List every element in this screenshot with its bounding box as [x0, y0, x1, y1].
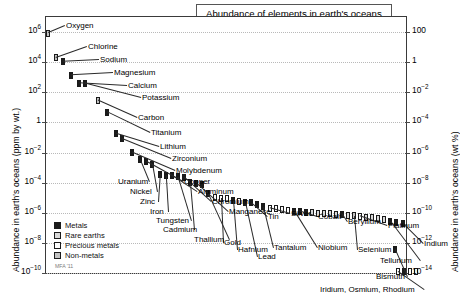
element-label: Beryllium [348, 217, 381, 226]
element-label: Chromium [212, 197, 249, 206]
element-label: Selenium [358, 245, 391, 254]
axis-tick [405, 153, 410, 154]
legend-swatch [54, 222, 61, 229]
element-label: Tantalum [274, 243, 306, 252]
y-tick-label: 10−6 [412, 146, 454, 156]
element-label: Magnesium [114, 68, 155, 77]
element-label: Niobium [318, 243, 347, 252]
element-label: Zinc [140, 197, 155, 206]
axis-tick [42, 153, 47, 154]
gridline [46, 92, 406, 93]
element-label: Platinum [388, 221, 419, 230]
axis-tick [42, 122, 47, 123]
y-tick-label: 10−4 [412, 115, 454, 125]
element-label: Bismuth [376, 272, 405, 281]
plot-area: OxygenChlorineSodiumMagnesiumCalciumPota… [45, 16, 407, 274]
y-tick-label: 100 [412, 25, 454, 35]
y-tick-label: 10−14 [412, 266, 454, 276]
element-label: Silver [291, 209, 311, 218]
legend-swatch [54, 232, 61, 239]
axis-tick [405, 32, 410, 33]
y-tick-label: 104 [0, 55, 41, 65]
element-label: Zirconium [172, 154, 207, 163]
leader-line [152, 165, 158, 192]
element-label: Lithium [160, 142, 186, 151]
axis-tick [42, 183, 47, 184]
element-label: Titanium [151, 128, 181, 137]
data-marker [382, 216, 386, 223]
gridline [46, 32, 406, 33]
y-tick-label: 10−2 [412, 85, 454, 95]
gridline [46, 273, 406, 274]
legend-item: Non-metals [54, 250, 119, 260]
y-tick-label: 10−2 [0, 146, 41, 156]
element-label: Iron [150, 207, 164, 216]
y-tick-label: 10−4 [0, 176, 41, 186]
y-tick-label: 102 [0, 85, 41, 95]
legend-item: Metals [54, 220, 119, 230]
element-label: Carbon [138, 113, 164, 122]
axis-tick [42, 213, 47, 214]
element-label: Oxygen [66, 21, 94, 30]
element-label: Aluminum [198, 187, 234, 196]
leader-line [56, 46, 87, 58]
element-label: Cobalt [318, 212, 341, 221]
credit-text: MFA '11 [55, 263, 73, 269]
element-label: Tin [268, 212, 279, 221]
gridline [46, 183, 406, 184]
element-label: Tungsten [156, 216, 189, 225]
legend-label: Precious metals [65, 241, 119, 250]
leader-line [166, 175, 169, 212]
axis-tick [405, 62, 410, 63]
element-label: Molybdenum [176, 166, 222, 175]
legend-swatch [54, 242, 61, 249]
y-tick-label: 10−10 [412, 206, 454, 216]
element-label: Nickel [130, 187, 152, 196]
element-label: Calcium [128, 81, 157, 90]
legend-label: Metals [65, 221, 87, 230]
gridline [46, 153, 406, 154]
axis-tick [42, 243, 47, 244]
y-tick-label: 106 [0, 25, 41, 35]
axis-tick [405, 122, 410, 123]
legend-label: Rare earths [65, 231, 105, 240]
element-label: Chlorine [88, 42, 118, 51]
legend: MetalsRare earthsPrecious metalsNon-meta… [54, 220, 119, 260]
legend-item: Precious metals [54, 240, 119, 250]
y-axis-label-left: Abundance in earth's oceans (ppm by wt.) [11, 108, 21, 272]
axis-tick [405, 92, 410, 93]
element-label: Copper [184, 177, 210, 186]
element-label: Tellurium [380, 256, 412, 265]
y-tick-label: 10−8 [0, 236, 41, 246]
y-tick-label: 10−12 [412, 236, 454, 246]
element-label: Uranium [118, 177, 148, 186]
axis-tick [42, 62, 47, 63]
element-label: Thallium [194, 235, 224, 244]
element-label: Lead [258, 252, 276, 261]
legend-label: Non-metals [65, 251, 104, 260]
gridline [46, 122, 406, 123]
y-tick-label: 1 [412, 55, 454, 65]
element-label: Manganese [229, 207, 271, 216]
element-label: Sodium [100, 55, 127, 64]
y-tick-label: 10−10 [0, 266, 41, 276]
axis-tick [42, 273, 47, 274]
element-label: Iridium, Osmium, Rhodium [320, 285, 415, 293]
leader-line [158, 174, 161, 202]
y-tick-label: 1 [0, 115, 41, 125]
element-label: Potassium [142, 93, 179, 102]
legend-item: Rare earths [54, 230, 119, 240]
axis-tick [42, 92, 47, 93]
legend-swatch [54, 252, 61, 259]
y-tick-label: 10−8 [412, 176, 454, 186]
axis-tick [405, 213, 410, 214]
y-tick-label: 10−6 [0, 206, 41, 216]
axis-tick [405, 183, 410, 184]
element-label: Cadmium [163, 225, 197, 234]
leader-line [71, 72, 113, 75]
